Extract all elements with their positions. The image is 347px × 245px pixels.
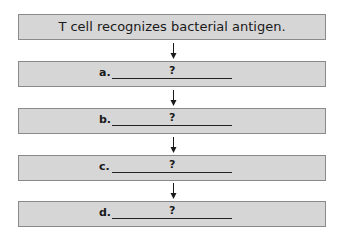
answer-blank xyxy=(112,172,232,173)
answer-blank xyxy=(112,125,232,126)
start-box-text: T cell recognizes bacterial antigen. xyxy=(19,19,325,34)
step-box-c: c. ? xyxy=(18,155,326,181)
answer-blank xyxy=(112,218,232,219)
start-box: T cell recognizes bacterial antigen. xyxy=(18,14,326,40)
step-box-d: d. ? xyxy=(18,201,326,227)
down-arrow-icon xyxy=(170,183,177,199)
down-arrow-icon xyxy=(170,90,177,106)
question-mark: ? xyxy=(169,64,175,77)
step-box-a: a. ? xyxy=(18,61,326,87)
question-mark: ? xyxy=(169,204,175,217)
step-box-b: b. ? xyxy=(18,108,326,134)
down-arrow-icon xyxy=(170,137,177,153)
down-arrow-icon xyxy=(170,43,177,59)
step-label: d. xyxy=(99,206,111,219)
question-mark: ? xyxy=(169,158,175,171)
step-label: a. xyxy=(99,66,111,79)
answer-blank xyxy=(112,78,232,79)
step-label: b. xyxy=(99,113,111,126)
step-label: c. xyxy=(99,160,110,173)
question-mark: ? xyxy=(169,111,175,124)
